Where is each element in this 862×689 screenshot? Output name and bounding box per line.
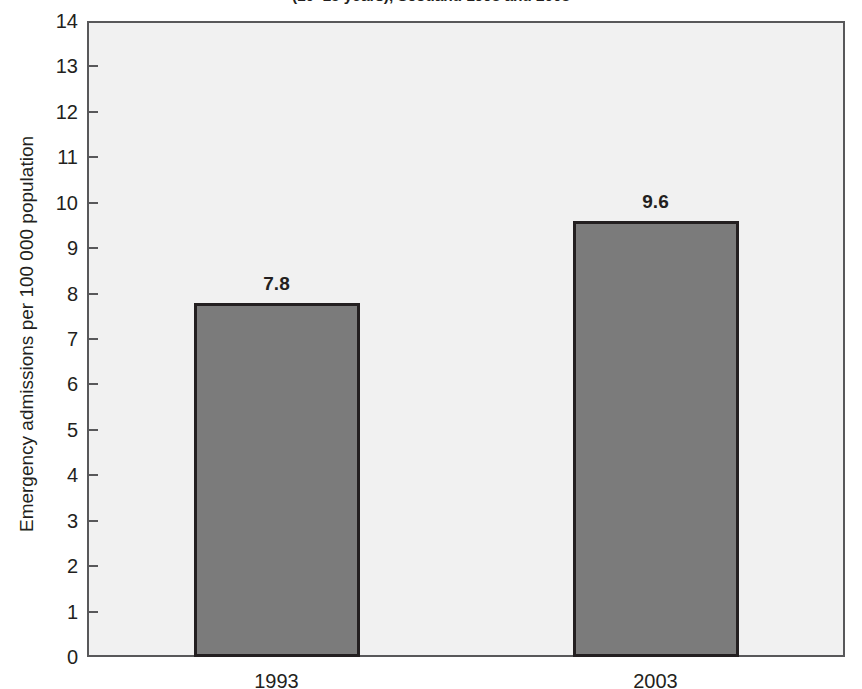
y-axis-tick-label: 8: [38, 284, 78, 304]
chart-figure: (10–15 years), Scotland 1993 and 2003 Em…: [0, 0, 862, 689]
y-axis-tick-label: 10: [38, 193, 78, 213]
y-axis-tick-label: 11: [38, 147, 78, 167]
y-axis-tick: [87, 247, 98, 249]
y-axis-tick: [87, 202, 98, 204]
bar-value-label: 9.6: [596, 192, 716, 211]
y-axis-tick: [87, 565, 98, 567]
y-axis-tick-label: 0: [38, 647, 78, 667]
y-axis-tick: [87, 156, 98, 158]
bar-value-label: 7.8: [217, 274, 337, 293]
y-axis-tick: [87, 338, 98, 340]
y-axis-tick: [87, 65, 98, 67]
y-axis-tick-label: 9: [38, 238, 78, 258]
y-axis-title: Emergency admissions per 100 000 populat…: [14, 4, 40, 664]
y-axis-tick-label: 3: [38, 511, 78, 531]
y-axis-tick: [87, 520, 98, 522]
x-axis-tick-label: 1993: [197, 671, 357, 689]
y-axis-tick: [87, 611, 98, 613]
y-axis-tick: [87, 474, 98, 476]
y-axis-tick-label: 6: [38, 374, 78, 394]
y-axis-tick: [87, 383, 98, 385]
y-axis-tick-label: 5: [38, 420, 78, 440]
y-axis-tick-label: 4: [38, 465, 78, 485]
bar-2003: [573, 221, 739, 657]
bar-1993: [194, 303, 360, 657]
x-axis-tick-label: 2003: [576, 671, 736, 689]
y-axis-tick-label: 13: [38, 56, 78, 76]
y-axis-tick-label: 14: [38, 11, 78, 31]
y-axis-tick-label: 2: [38, 556, 78, 576]
y-axis-tick: [87, 111, 98, 113]
y-axis-tick-label: 7: [38, 329, 78, 349]
y-axis-tick-label: 12: [38, 102, 78, 122]
y-axis-tick: [87, 293, 98, 295]
y-axis-tick-label: 1: [38, 602, 78, 622]
chart-title: (10–15 years), Scotland 1993 and 2003: [0, 0, 862, 5]
y-axis-tick: [87, 429, 98, 431]
